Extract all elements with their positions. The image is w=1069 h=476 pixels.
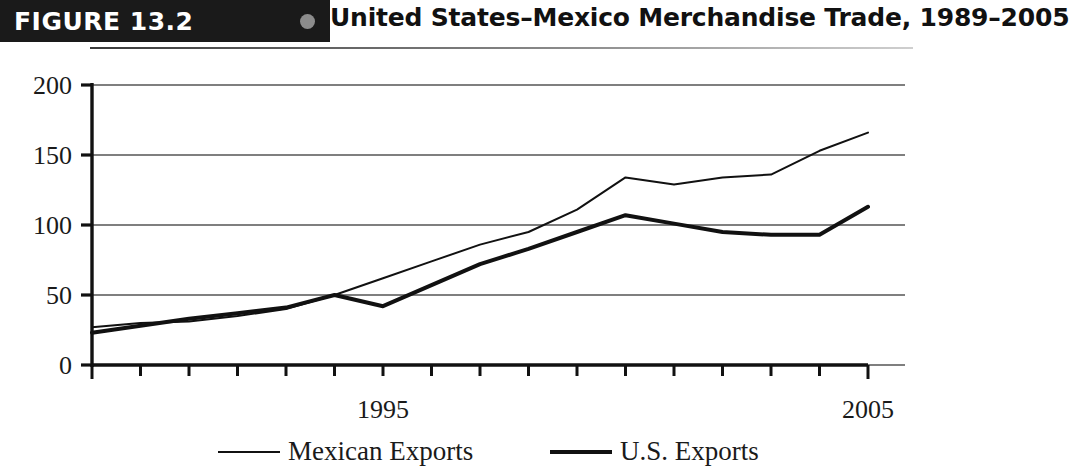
figure-number-label: FIGURE 13.2 bbox=[14, 7, 193, 36]
x-axis-labels: 19952005 bbox=[357, 395, 894, 424]
chart-area: 050100150200 19952005 Mexican ExportsU.S… bbox=[0, 48, 913, 476]
x-axis-ticks bbox=[92, 365, 868, 379]
y-tick-label: 150 bbox=[33, 141, 72, 170]
figure-header: FIGURE 13.2 United States–Mexico Merchan… bbox=[0, 0, 913, 48]
figure-title: United States–Mexico Merchandise Trade, … bbox=[330, 3, 1069, 32]
figure-number-badge: FIGURE 13.2 bbox=[0, 0, 330, 42]
chart-legend: Mexican ExportsU.S. Exports bbox=[218, 436, 759, 466]
gridlines bbox=[92, 85, 905, 365]
data-series bbox=[92, 133, 868, 333]
y-tick-label: 100 bbox=[33, 211, 72, 240]
series-line-mexican-exports bbox=[92, 133, 868, 328]
y-tick-label: 0 bbox=[59, 351, 72, 380]
bullet-dot-icon bbox=[300, 14, 315, 29]
legend-label-1: Mexican Exports bbox=[288, 436, 473, 466]
line-chart: 050100150200 19952005 Mexican ExportsU.S… bbox=[0, 48, 913, 476]
legend-label-2: U.S. Exports bbox=[620, 436, 759, 466]
y-tick-label: 200 bbox=[33, 71, 72, 100]
x-tick-label: 1995 bbox=[357, 395, 409, 424]
y-tick-label: 50 bbox=[46, 281, 72, 310]
x-tick-label: 2005 bbox=[842, 395, 894, 424]
y-axis-labels: 050100150200 bbox=[33, 71, 72, 380]
